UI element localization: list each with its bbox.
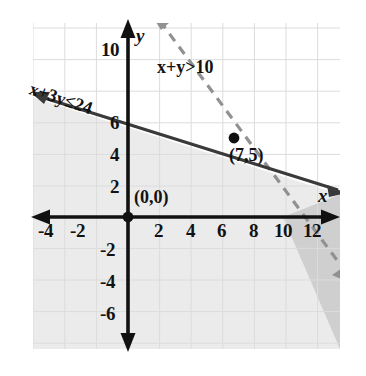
origin-dot <box>123 212 134 223</box>
y-tick-neg6: -6 <box>100 304 115 323</box>
y-tick-neg2: -2 <box>100 240 115 259</box>
test-point-dot <box>229 133 240 144</box>
x-tick-10: 10 <box>274 221 292 240</box>
y-tick-4: 4 <box>110 145 119 164</box>
x-tick-neg2: -2 <box>70 221 85 240</box>
y-tick-2: 2 <box>110 177 119 196</box>
origin-point-label: (0,0) <box>134 188 169 206</box>
x-tick-neg4: -4 <box>38 221 53 240</box>
x-axis-label: x <box>318 186 328 205</box>
math-graph-figure: y x 10 6 4 2 -2 -4 -6 -4 -2 2 4 6 8 10 1… <box>0 0 366 376</box>
dashed-inequality-label: x+y>10 <box>157 58 214 76</box>
test-point-label: (7,5) <box>229 146 264 164</box>
x-tick-4: 4 <box>186 221 195 240</box>
y-tick-10: 10 <box>101 40 119 59</box>
x-tick-6: 6 <box>217 221 226 240</box>
y-axis-label: y <box>136 26 144 45</box>
x-tick-8: 8 <box>249 221 258 240</box>
x-tick-2: 2 <box>154 221 163 240</box>
y-tick-neg4: -4 <box>100 272 115 291</box>
x-tick-12: 12 <box>303 221 321 240</box>
y-tick-6: 6 <box>110 113 119 132</box>
